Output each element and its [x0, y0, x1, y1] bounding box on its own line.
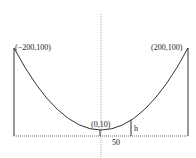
- left-point-label: (−200,100): [15, 43, 51, 52]
- vertex-label: (0,10): [91, 120, 111, 129]
- right-point-label: (200,100): [151, 43, 183, 52]
- parabola-diagram: (−200,100) (200,100) (0,10) 50 h: [0, 0, 196, 158]
- offset-label: 50: [112, 138, 120, 147]
- height-label: h: [134, 124, 138, 133]
